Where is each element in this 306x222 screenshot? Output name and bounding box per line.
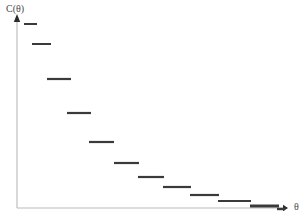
plot-canvas <box>0 0 306 222</box>
axes-group <box>14 14 288 211</box>
y-axis-arrowhead-icon <box>14 14 20 22</box>
y-axis-label: C(θ) <box>6 4 24 14</box>
step-series <box>24 24 285 209</box>
x-axis-label: θ <box>294 202 299 212</box>
step-function-chart: C(θ) θ <box>0 0 306 222</box>
